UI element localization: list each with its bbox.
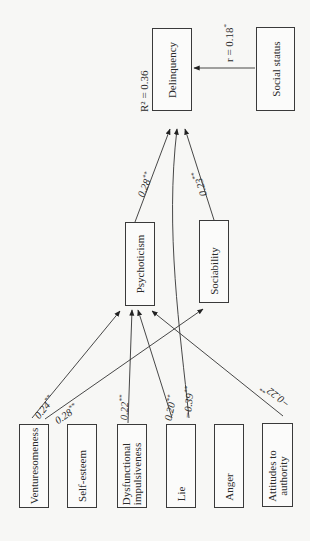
node-label: Delinquency bbox=[166, 41, 178, 97]
r-social-label: r = 0.18* bbox=[222, 24, 235, 62]
node-psychoticism: Psychoticism bbox=[125, 222, 155, 306]
node-social-status: Social status bbox=[256, 27, 295, 111]
node-label: Venturesomeness bbox=[28, 428, 40, 504]
edge-lie-delinquency bbox=[173, 129, 189, 418]
path-diagram: Delinquency Social status Psychoticism S… bbox=[0, 0, 310, 541]
node-label-line1: Attitudes to bbox=[266, 451, 278, 503]
r-squared-label: R² = 0.36 bbox=[138, 70, 150, 112]
node-attitudes-to-authority: Attitudes to authority bbox=[262, 423, 293, 507]
node-label: Social status bbox=[270, 41, 282, 96]
node-label-line2: impulsiveness bbox=[131, 443, 143, 505]
node-self-esteem: Self-esteem bbox=[67, 424, 97, 508]
node-label: Dysfunctional impulsiveness bbox=[121, 443, 143, 505]
coef-dysfunctional-psychoticism: 0.22** bbox=[117, 395, 130, 421]
node-sociability: Sociability bbox=[199, 220, 229, 303]
node-label: Self-esteem bbox=[76, 450, 88, 502]
node-label-line2: authority bbox=[277, 457, 289, 497]
node-label: Attitudes to authority bbox=[267, 451, 289, 503]
node-venturesomeness: Venturesomeness bbox=[19, 424, 49, 508]
node-anger: Anger bbox=[214, 424, 244, 508]
node-label: Psychoticism bbox=[134, 235, 146, 294]
node-lie: Lie bbox=[166, 424, 196, 508]
node-label: Lie bbox=[175, 487, 187, 502]
node-label: Anger bbox=[223, 474, 235, 502]
node-dysfunctional-impulsiveness: Dysfunctional impulsiveness bbox=[117, 424, 147, 508]
node-delinquency: Delinquency bbox=[152, 28, 192, 111]
node-label: Sociability bbox=[208, 247, 220, 295]
